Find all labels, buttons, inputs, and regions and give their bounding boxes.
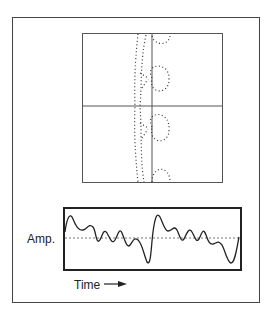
waveform-trace: [65, 215, 239, 263]
loop-plot: [82, 33, 223, 183]
right-arrow-icon: [104, 279, 128, 289]
time-label: Time: [74, 278, 100, 292]
amplitude-label: Amp.: [27, 232, 55, 246]
waveform-plot: [63, 207, 242, 271]
